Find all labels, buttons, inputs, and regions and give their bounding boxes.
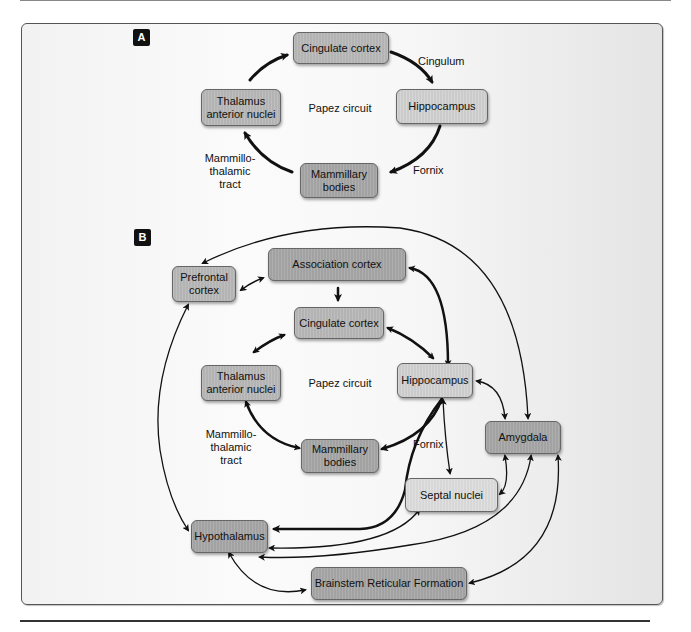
papez-circuit-label-a: Papez circuit — [300, 102, 380, 115]
node-label: Cingulate cortex — [299, 317, 379, 330]
node-a-cingulate-cortex: Cingulate cortex — [293, 32, 389, 64]
node-a-thalamus-anterior-nuclei: Thalamus anterior nuclei — [201, 89, 281, 126]
node-b-hypothalamus: Hypothalamus — [191, 520, 268, 553]
node-label: Hypothalamus — [194, 530, 264, 543]
node-label: Association cortex — [292, 258, 381, 271]
node-b-amygdala: Amygdala — [485, 421, 561, 454]
papez-circuit-label-b: Papez circuit — [300, 377, 380, 390]
node-b-association-cortex: Association cortex — [268, 248, 406, 281]
node-label: Brainstem Reticular Formation — [315, 577, 464, 590]
node-b-brainstem-reticular-formation: Brainstem Reticular Formation — [311, 567, 467, 600]
panel-b-badge: B — [134, 229, 151, 246]
node-a-hippocampus: Hippocampus — [396, 89, 488, 124]
mammillothalamic-tract-label-a: Mammillo- thalamic tract — [195, 152, 265, 191]
node-label: Prefrontal cortex — [180, 271, 228, 297]
cingulum-label: Cingulum — [418, 55, 464, 68]
bottom-rule — [20, 620, 650, 622]
node-label: Mammillary bodies — [312, 443, 368, 469]
node-b-cingulate-cortex: Cingulate cortex — [294, 307, 384, 339]
node-label: Amygdala — [499, 431, 548, 444]
node-label: Thalamus anterior nuclei — [206, 95, 275, 121]
node-b-mammillary-bodies: Mammillary bodies — [301, 439, 379, 473]
node-label: Hippocampus — [401, 374, 468, 387]
fornix-label-a: Fornix — [413, 164, 444, 177]
mammillothalamic-tract-label-b: Mammillo- thalamic tract — [196, 428, 266, 467]
node-b-hippocampus: Hippocampus — [397, 363, 473, 398]
node-label: Cingulate cortex — [301, 42, 381, 55]
node-b-prefrontal-cortex: Prefrontal cortex — [172, 266, 236, 302]
node-label: Mammillary bodies — [311, 168, 367, 194]
node-b-septal-nuclei: Septal nuclei — [405, 478, 498, 512]
node-label: Hippocampus — [408, 100, 475, 113]
node-label: Septal nuclei — [420, 489, 483, 502]
fornix-label-b: Fornix — [413, 438, 444, 451]
node-b-thalamus-anterior-nuclei: Thalamus anterior nuclei — [201, 365, 281, 401]
node-label: Thalamus anterior nuclei — [206, 370, 275, 396]
node-a-mammillary-bodies: Mammillary bodies — [300, 163, 378, 198]
panel-a-badge: A — [133, 29, 150, 46]
